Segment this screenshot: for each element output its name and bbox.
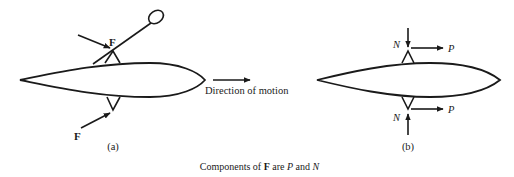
- lower-normal-label: N: [392, 112, 401, 123]
- caption-component-p: P: [286, 161, 293, 172]
- oarlock-bottom-b: [402, 97, 414, 109]
- oarlock-top-a: [105, 51, 120, 63]
- panel-b: N P P N (b): [317, 28, 500, 153]
- panel-a: F F Direction of motion (a): [20, 7, 289, 153]
- caption-middle: are: [270, 161, 287, 172]
- oar-shaft: [93, 23, 151, 64]
- caption-conjunction: and: [293, 161, 312, 172]
- oarlock-bottom-a: [107, 97, 120, 110]
- upper-normal-label: N: [392, 39, 401, 50]
- lower-force-label: F: [74, 130, 81, 142]
- upper-parallel-label: P: [447, 43, 455, 54]
- direction-label: Direction of motion: [205, 85, 289, 96]
- hull-a: [20, 63, 205, 97]
- upper-force-arrow: [78, 35, 110, 48]
- caption-component-n: N: [312, 161, 321, 172]
- caption-prefix: Components of: [200, 161, 264, 172]
- figure-canvas: F F Direction of motion (a) N P: [0, 0, 514, 177]
- upper-force-label: F: [109, 36, 116, 48]
- lower-parallel-label: P: [447, 104, 455, 115]
- panel-b-label: (b): [402, 141, 415, 153]
- hull-b: [317, 63, 500, 97]
- oarlock-top-b: [402, 51, 414, 63]
- diagram-svg: F F Direction of motion (a) N P: [0, 0, 514, 177]
- lower-force-arrow: [81, 113, 110, 128]
- panel-a-label: (a): [107, 141, 119, 153]
- figure-caption: Components of F are P and N: [182, 161, 331, 172]
